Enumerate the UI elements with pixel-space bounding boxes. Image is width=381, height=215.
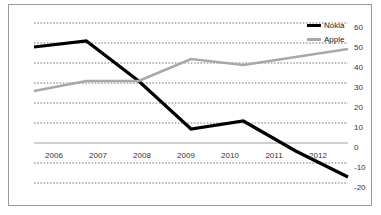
x-tick-2007: 2007	[78, 151, 118, 160]
legend-swatch-apple-icon	[307, 38, 321, 41]
chart-figure-frame: 60 50 40 30 20 10 0 -10 -20 2006 2007 20…	[8, 4, 372, 206]
y-tick-10: 10	[354, 123, 380, 132]
x-tick-2009: 2009	[166, 151, 206, 160]
x-tick-2011: 2011	[254, 151, 294, 160]
x-tick-2012: 2012	[298, 151, 338, 160]
legend-swatch-nokia-icon	[307, 24, 321, 27]
legend-item-apple: Apple	[307, 33, 355, 45]
legend-item-nokia: Nokia	[307, 19, 355, 31]
chart-canvas	[31, 15, 351, 197]
y-tick-50: 50	[354, 43, 380, 52]
legend-label-apple: Apple	[324, 35, 344, 44]
x-tick-2006: 2006	[34, 151, 74, 160]
y-tick-60: 60	[354, 23, 380, 32]
legend-label-nokia: Nokia	[324, 21, 344, 30]
y-tick-30: 30	[354, 83, 380, 92]
x-tick-2008: 2008	[122, 151, 162, 160]
y-tick-0: 0	[354, 143, 380, 152]
x-tick-2010: 2010	[210, 151, 250, 160]
y-tick-40: 40	[354, 63, 380, 72]
y-tick-neg20: -20	[354, 183, 380, 192]
plot-area	[31, 15, 351, 197]
series-line-apple	[34, 49, 348, 91]
chart-legend: Nokia Apple	[307, 19, 355, 47]
chart-screenshot: 60 50 40 30 20 10 0 -10 -20 2006 2007 20…	[0, 0, 381, 215]
y-tick-20: 20	[354, 103, 380, 112]
y-tick-neg10: -10	[354, 163, 380, 172]
